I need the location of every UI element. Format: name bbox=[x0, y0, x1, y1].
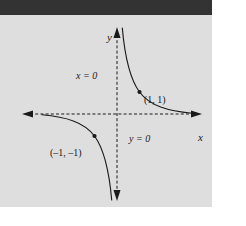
x-axis-arrow-left-icon bbox=[22, 111, 33, 118]
point-label-neg1-neg1: (–1, –1) bbox=[50, 148, 82, 158]
y-axis-arrow-up-icon bbox=[114, 27, 121, 38]
hyperbola-plot bbox=[0, 15, 212, 207]
plot-panel: y x x = 0 y = 0 (1, 1) (–1, –1) bbox=[0, 15, 212, 207]
y-axis-arrow-down-icon bbox=[114, 190, 121, 201]
figure-container: y x x = 0 y = 0 (1, 1) (–1, –1) bbox=[0, 0, 246, 226]
x-axis bbox=[22, 111, 202, 118]
x-axis-label: x bbox=[198, 132, 203, 143]
x-axis-arrow-right-icon bbox=[191, 111, 202, 118]
y-axis-label: y bbox=[107, 32, 112, 43]
point-marker-neg1-neg1 bbox=[92, 134, 96, 138]
top-dark-band bbox=[0, 0, 212, 15]
point-label-1-1: (1, 1) bbox=[144, 95, 166, 105]
point-marker-1-1 bbox=[137, 90, 141, 94]
vertical-asymptote-label: x = 0 bbox=[76, 71, 97, 81]
horizontal-asymptote-label: y = 0 bbox=[129, 134, 150, 144]
